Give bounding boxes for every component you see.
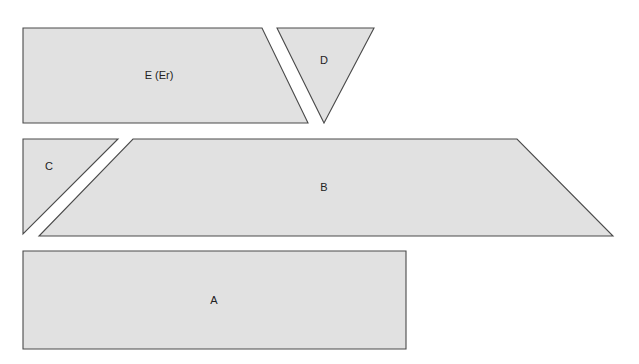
piece-b: B [39,139,613,236]
piece-b-label: B [320,181,327,193]
piece-a-label: A [210,294,218,306]
piece-a: A [23,251,406,349]
piece-c-label: C [45,160,53,172]
piece-d-label: D [320,54,328,66]
piece-e-label: E (Er) [145,69,174,81]
puzzle-pieces-diagram: E (Er) D C B A [0,0,639,364]
piece-e: E (Er) [23,28,308,123]
